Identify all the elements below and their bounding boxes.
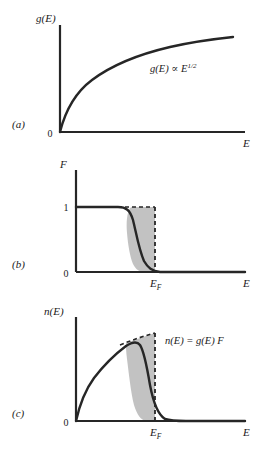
panel-a-label: (a): [12, 118, 25, 131]
panel-b-y-tick-one: 1: [64, 202, 69, 213]
panel-c: n(E) E 0 EF (c) n(E) = g(E) F: [0, 295, 267, 449]
panel-b-fermi-dirac-curve: [76, 207, 245, 272]
panel-a-x-axis-label: E: [242, 137, 250, 149]
panel-c-origin-label: 0: [64, 417, 69, 428]
panel-b-fermi-sub: F: [156, 283, 162, 292]
panel-c-annotation: n(E) = g(E) F: [165, 335, 224, 347]
panel-c-label: (c): [12, 407, 25, 420]
physics-figure: g(E) E 0 (a) g(E) ∝ E1/2: [0, 0, 267, 449]
panel-a: g(E) E 0 (a) g(E) ∝ E1/2: [0, 0, 267, 150]
panel-b-x-axis-label: E: [242, 277, 250, 289]
panel-a-annotation: g(E) ∝ E1/2: [150, 62, 197, 75]
panel-c-x-axis-label: E: [242, 426, 250, 438]
panel-b-fermi-energy-tick: EF: [149, 277, 162, 292]
panel-a-density-of-states-curve: [60, 37, 233, 132]
panel-b-label: (b): [12, 258, 25, 271]
panel-c-plot: n(E) E 0 EF (c) n(E) = g(E) F: [0, 295, 267, 449]
panel-a-plot: g(E) E 0 (a) g(E) ∝ E1/2: [0, 0, 267, 150]
panel-c-y-axis-label: n(E): [44, 305, 64, 318]
panel-b-y-axis-label: F: [59, 158, 67, 170]
panel-a-origin-label: 0: [48, 128, 53, 139]
panel-a-y-axis-label: g(E): [36, 12, 56, 25]
panel-b-plot: F E 1 0 EF (b): [0, 150, 267, 295]
panel-a-annotation-base: g(E) ∝ E: [150, 63, 188, 75]
panel-b-origin-label: 0: [64, 268, 69, 279]
panel-c-fermi-sub: F: [156, 432, 162, 441]
panel-c-fermi-energy-tick: EF: [149, 426, 162, 441]
panel-c-electron-distribution-curve: [76, 342, 245, 421]
panel-b: F E 1 0 EF (b): [0, 150, 267, 295]
panel-a-annotation-exponent: 1/2: [187, 62, 196, 70]
